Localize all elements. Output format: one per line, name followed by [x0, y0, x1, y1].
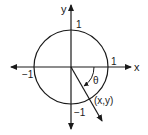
- tick-label-y-pos: 1: [76, 19, 82, 30]
- tick-label-y-neg: −1: [74, 107, 86, 118]
- tick-label-x-neg: −1: [22, 69, 34, 80]
- y-axis-label: y: [61, 3, 67, 15]
- unit-circle-diagram: y x 1 1 −1 −1 θ (x,y): [0, 0, 148, 135]
- angle-label: θ: [93, 75, 99, 86]
- tick-label-x-pos: 1: [111, 56, 117, 67]
- point-label: (x,y): [94, 95, 113, 106]
- x-axis-label: x: [134, 61, 140, 73]
